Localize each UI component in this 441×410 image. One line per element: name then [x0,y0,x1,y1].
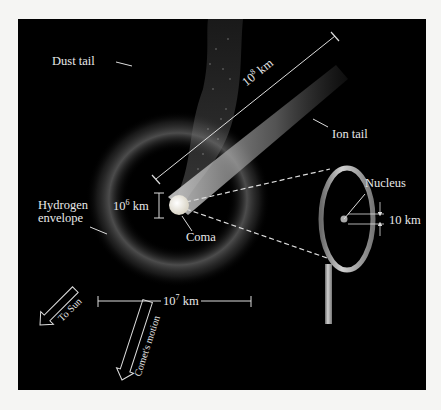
ion-tail-label: Ion tail [332,128,368,141]
dust-tail-label: Dust tail [52,55,95,68]
coma [169,195,189,215]
coma-size-label: 106 km [113,200,149,213]
nucleus-size-label: 10 km [389,214,421,227]
nucleus-label: Nucleus [365,177,406,190]
coma-label: Coma [186,231,216,244]
magnifier [321,168,384,324]
comet-diagram-panel: Dust tail Ion tail 108 km Hydrogenenvelo… [18,19,426,390]
envelope-size-label: 107 km [161,295,201,308]
hydrogen-envelope-label: Hydrogenenvelope [38,199,88,225]
